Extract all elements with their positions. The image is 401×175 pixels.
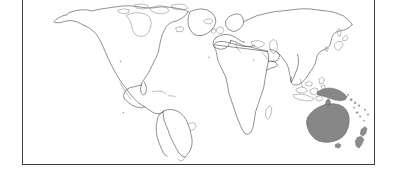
shape-tasmania [335, 143, 341, 148]
region-north-america [54, 4, 216, 114]
shape-australia [306, 104, 349, 143]
island-speck [364, 109, 366, 111]
region-indonesia [293, 77, 325, 101]
world-map-figure [22, 0, 375, 165]
island-speck [350, 98, 353, 101]
island-speck [367, 114, 369, 116]
region-south-america [156, 110, 196, 161]
world-map-svg [23, 0, 374, 164]
island-speck [359, 116, 361, 118]
island-speck [353, 107, 355, 109]
shape-new-zealand-north [360, 126, 367, 136]
page-root [0, 0, 401, 175]
shape-new-zealand-south [355, 136, 364, 148]
island-speck [358, 105, 360, 107]
island-speck [354, 102, 356, 104]
region-africa [214, 41, 278, 134]
shape-cape-york [325, 99, 330, 105]
island-speck [363, 120, 365, 122]
island-speck [356, 111, 358, 113]
region-highlight-oceania [306, 88, 369, 148]
island-speck [347, 94, 349, 96]
shape-new-guinea [317, 88, 347, 101]
region-europe [204, 14, 278, 54]
